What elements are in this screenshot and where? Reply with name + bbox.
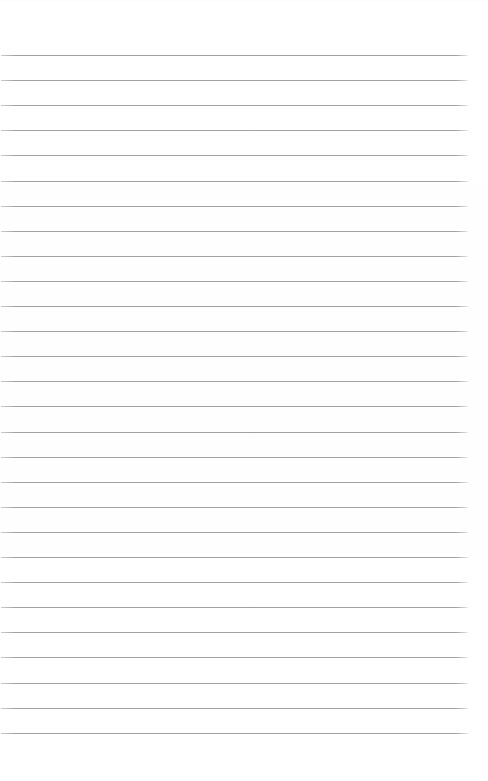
rule-line: [1, 105, 468, 106]
rule-line: [1, 155, 468, 156]
paper-page: [0, 0, 488, 781]
rule-line: [1, 733, 468, 734]
ruling-lines-layer: [0, 0, 488, 781]
rule-line: [1, 256, 468, 257]
rule-line: [1, 482, 468, 483]
rule-line: [1, 406, 468, 407]
rule-line: [1, 381, 468, 382]
rule-line: [1, 582, 468, 583]
rule-line: [1, 331, 468, 332]
rule-line: [1, 55, 468, 56]
rule-line: [1, 206, 468, 207]
rule-line: [1, 281, 468, 282]
rule-line: [1, 130, 468, 131]
rule-line: [1, 356, 468, 357]
rule-line: [1, 80, 468, 81]
rule-line: [1, 607, 468, 608]
rule-line: [1, 507, 468, 508]
rule-line: [1, 306, 468, 307]
rule-line: [1, 683, 468, 684]
rule-line: [1, 457, 468, 458]
rule-line: [1, 432, 468, 433]
rule-line: [1, 532, 468, 533]
rule-line: [1, 632, 468, 633]
rule-line: [1, 557, 468, 558]
rule-line: [1, 708, 468, 709]
rule-line: [1, 181, 468, 182]
rule-line: [1, 657, 468, 658]
rule-line: [1, 231, 468, 232]
